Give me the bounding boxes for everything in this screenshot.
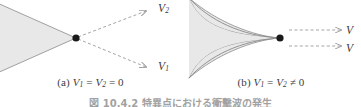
- panel-b-caption: (b) V1 = V2 ≠ 0: [181, 76, 361, 89]
- panel-b-graphic: [181, 0, 361, 107]
- shaded-region-triangle: [0, 0, 76, 78]
- panel-a-caption: (a) V1 = V2 = 0: [0, 76, 181, 89]
- diagram-panel-b: V V (b) V1 = V2 ≠ 0: [181, 0, 361, 107]
- velocity-arrow-v2: [78, 11, 146, 37]
- figure-caption: 図 10.4.2 特異点における衝撃波の発生: [0, 95, 361, 107]
- panel-a-graphic: [0, 0, 181, 107]
- label-v2: V: [346, 24, 353, 36]
- label-v2: V2: [158, 2, 169, 15]
- label-v1: V1: [158, 60, 169, 73]
- figure-container: V2 V1 (a) V1 = V2 = 0: [0, 0, 361, 107]
- velocity-arrow-v1: [78, 39, 146, 67]
- singular-point-dot: [276, 34, 283, 41]
- label-v1: V: [346, 42, 353, 54]
- shaded-region-cusp: [189, 0, 280, 78]
- diagram-panel-a: V2 V1 (a) V1 = V2 = 0: [0, 0, 181, 107]
- singular-point-dot: [72, 34, 79, 41]
